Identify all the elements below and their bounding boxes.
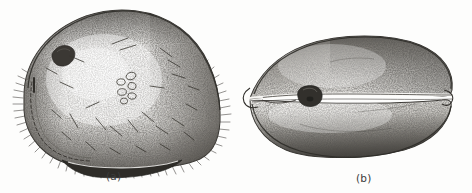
figure-b-dorsal-view (0, 0, 472, 193)
dark-nodule-icon (298, 86, 323, 107)
illustration-plate: (a) (b) (0, 0, 472, 193)
figure-caption-a: (a) (106, 170, 121, 182)
figure-caption-b: (b) (356, 172, 371, 184)
